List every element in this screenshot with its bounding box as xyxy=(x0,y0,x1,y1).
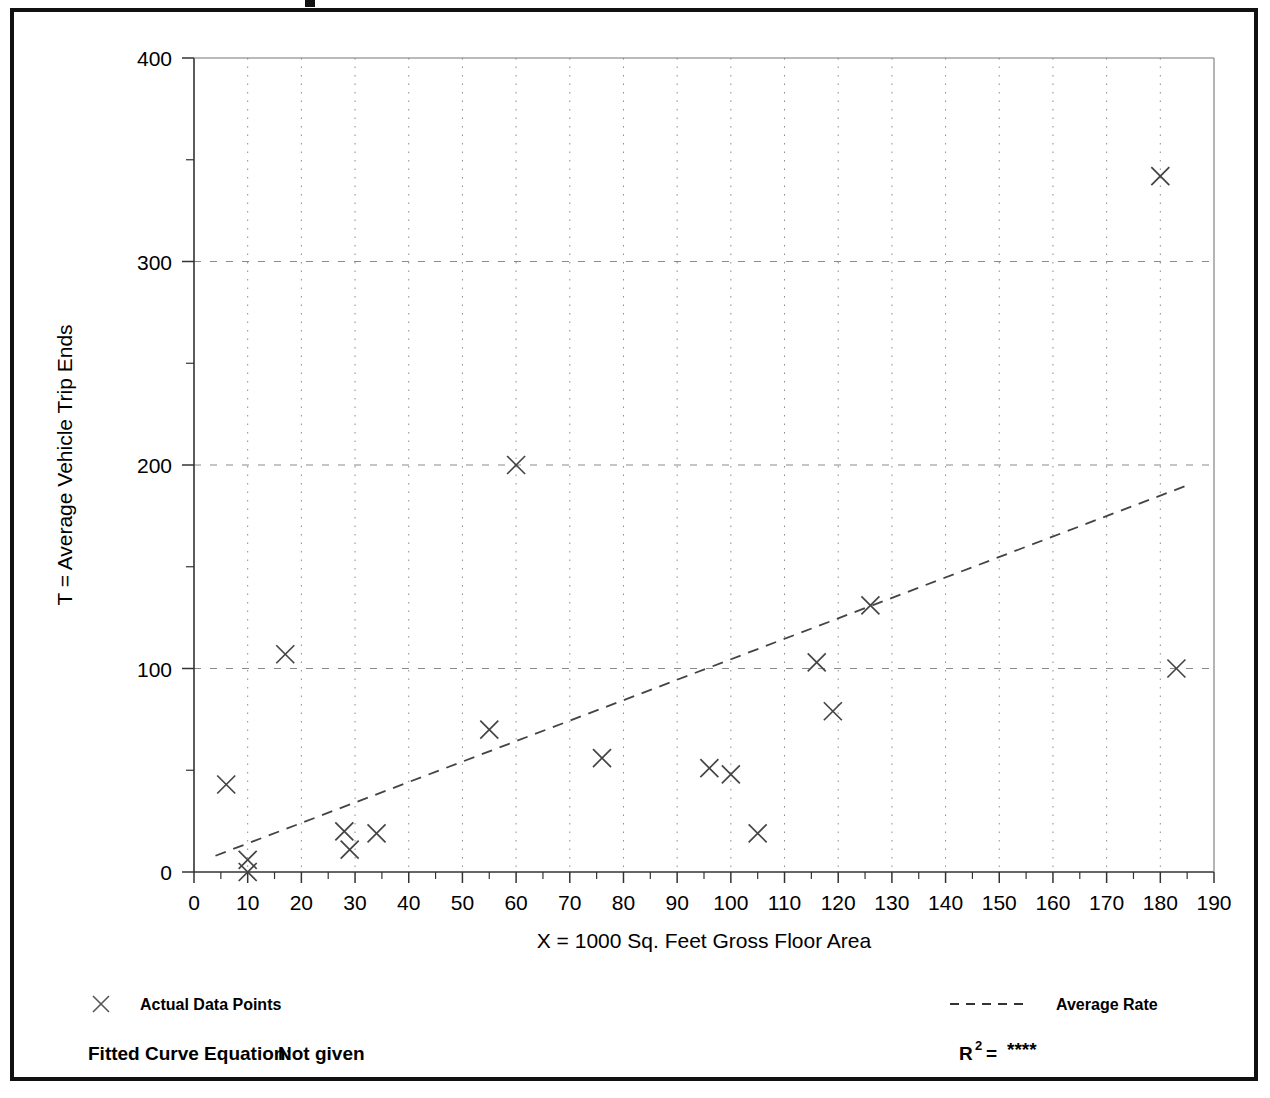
y-tick-label: 400 xyxy=(137,47,172,70)
x-tick-label: 40 xyxy=(397,891,420,914)
y-axis-ticks xyxy=(182,58,194,872)
x-axis-tick-labels: 0102030405060708090100110120130140150160… xyxy=(188,891,1231,914)
r-squared-exponent: 2 xyxy=(975,1038,982,1053)
x-tick-label: 70 xyxy=(558,891,581,914)
x-tick-label: 170 xyxy=(1089,891,1124,914)
legend-average-rate-label: Average Rate xyxy=(1056,996,1158,1013)
x-tick-label: 0 xyxy=(188,891,200,914)
fitted-curve-equation: Fitted Curve Equation: Not given xyxy=(88,1043,365,1064)
r-squared-equals: = xyxy=(986,1043,997,1064)
screenshot-page: 0102030405060708090100110120130140150160… xyxy=(0,0,1270,1098)
x-axis-ticks xyxy=(194,872,1214,883)
chart-svg: 0102030405060708090100110120130140150160… xyxy=(0,0,1270,1098)
x-tick-label: 140 xyxy=(928,891,963,914)
x-tick-label: 90 xyxy=(665,891,688,914)
data-point-x-marker xyxy=(341,841,359,859)
data-point-x-marker xyxy=(368,824,386,842)
x-tick-label: 180 xyxy=(1143,891,1178,914)
legend-data-points-label: Actual Data Points xyxy=(140,996,281,1013)
x-tick-label: 10 xyxy=(236,891,259,914)
data-point-x-marker xyxy=(861,596,879,614)
x-tick-label: 160 xyxy=(1035,891,1070,914)
x-tick-label: 30 xyxy=(343,891,366,914)
fitted-curve-value: Not given xyxy=(278,1043,365,1064)
x-tick-label: 20 xyxy=(290,891,313,914)
x-tick-label: 150 xyxy=(982,891,1017,914)
scatter-chart: 0102030405060708090100110120130140150160… xyxy=(0,0,1270,1098)
x-tick-label: 130 xyxy=(874,891,909,914)
vertical-gridlines xyxy=(248,58,1161,872)
data-point-x-marker xyxy=(480,721,498,739)
r-squared-value: **** xyxy=(1007,1039,1037,1060)
r-squared-label: R xyxy=(959,1043,973,1064)
y-tick-label: 200 xyxy=(137,454,172,477)
x-tick-label: 50 xyxy=(451,891,474,914)
average-rate-trendline xyxy=(215,485,1187,855)
data-point-x-marker xyxy=(824,702,842,720)
y-tick-label: 0 xyxy=(160,861,172,884)
data-point-x-marker xyxy=(808,653,826,671)
r-squared-readout: R 2 = **** xyxy=(959,1038,1037,1064)
actual-data-points xyxy=(217,167,1185,881)
x-tick-label: 120 xyxy=(821,891,856,914)
data-point-x-marker xyxy=(217,775,235,793)
data-point-x-marker xyxy=(335,822,353,840)
y-tick-label: 300 xyxy=(137,251,172,274)
data-point-x-marker xyxy=(593,749,611,767)
data-point-x-marker xyxy=(700,759,718,777)
data-point-x-marker xyxy=(749,824,767,842)
x-axis-title: X = 1000 Sq. Feet Gross Floor Area xyxy=(537,929,872,952)
y-axis-tick-labels: 0100200300400 xyxy=(137,47,172,884)
trendline xyxy=(215,485,1187,855)
x-tick-label: 190 xyxy=(1196,891,1231,914)
x-tick-label: 110 xyxy=(768,891,801,914)
horizontal-gridlines xyxy=(194,262,1214,669)
y-axis-title: T = Average Vehicle Trip Ends xyxy=(53,324,76,605)
fitted-curve-label: Fitted Curve Equation: xyxy=(88,1043,292,1064)
x-marker-icon xyxy=(93,996,109,1012)
x-tick-label: 80 xyxy=(612,891,635,914)
legend-data-points: Actual Data Points xyxy=(93,996,281,1013)
x-tick-label: 100 xyxy=(713,891,748,914)
x-tick-label: 60 xyxy=(504,891,527,914)
legend-average-rate: Average Rate xyxy=(950,996,1158,1013)
data-point-x-marker xyxy=(276,645,294,663)
y-tick-label: 100 xyxy=(137,658,172,681)
